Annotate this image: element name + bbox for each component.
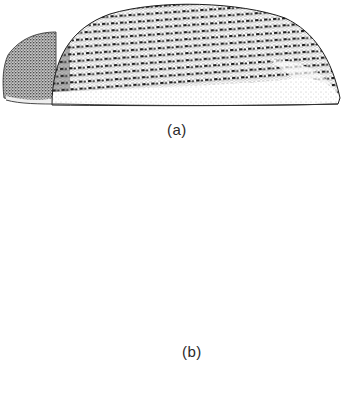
panel-a-beetle bbox=[3, 0, 350, 110]
panel-label-b: (b) bbox=[182, 343, 202, 360]
prothorax-a bbox=[3, 32, 56, 102]
panel-label-a: (a) bbox=[167, 121, 187, 138]
illustration-canvas bbox=[0, 0, 353, 401]
